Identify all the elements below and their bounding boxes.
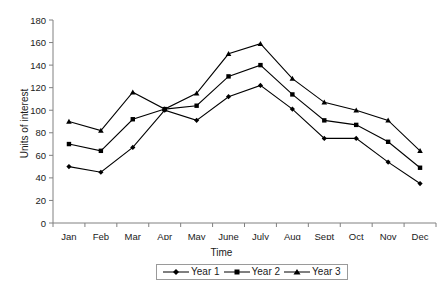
data-point-marker xyxy=(290,92,294,96)
legend-label-year-1: Year 1 xyxy=(191,266,220,277)
data-point-marker xyxy=(226,74,230,78)
data-point-marker xyxy=(130,89,136,94)
x-axis-tick-label: Apr xyxy=(157,231,172,240)
legend-item-year-3[interactable]: Year 3 xyxy=(282,266,343,277)
y-axis-tick-label: 140 xyxy=(30,60,46,71)
line-chart: Units of interest 0204060801001201401601… xyxy=(0,0,443,302)
x-axis-tick-label: Aug xyxy=(284,231,301,240)
x-axis-tick-label: May xyxy=(188,231,206,240)
x-axis-tick-label: Dec xyxy=(412,231,429,240)
x-axis-tick-label: June xyxy=(218,231,239,240)
data-point-marker xyxy=(354,123,358,127)
series-line-year-2 xyxy=(69,65,420,168)
x-axis-tick-label: Nov xyxy=(380,231,397,240)
x-axis-title: Time xyxy=(0,247,443,258)
x-axis-tick-label: Feb xyxy=(93,231,109,240)
y-axis-tick-label: 20 xyxy=(35,195,46,206)
series-line-year-3 xyxy=(69,44,420,151)
y-axis-tick-label: 40 xyxy=(35,172,46,183)
x-axis-tick-label: July xyxy=(252,231,269,240)
x-axis-tick-label: Oct xyxy=(349,231,364,240)
x-axis-tick-label: Mar xyxy=(125,231,141,240)
y-axis-tick-label: 80 xyxy=(35,127,46,138)
data-point-marker xyxy=(386,140,390,144)
legend-marker-diamond-icon xyxy=(163,267,189,277)
y-axis-tick-label: 60 xyxy=(35,150,46,161)
legend-marker-square-icon xyxy=(224,267,250,277)
data-point-marker xyxy=(131,117,135,121)
data-point-marker xyxy=(99,149,103,153)
series-line-year-1 xyxy=(69,85,420,183)
legend-label-year-3: Year 3 xyxy=(312,266,341,277)
legend-marker-triangle-icon xyxy=(284,267,310,277)
y-axis-tick-label: 180 xyxy=(30,15,46,26)
y-axis-tick-label: 100 xyxy=(30,105,46,116)
chart-legend: Year 1 Year 2 Year 3 xyxy=(156,264,348,280)
legend-item-year-1[interactable]: Year 1 xyxy=(161,266,222,277)
data-point-marker xyxy=(258,63,262,67)
y-axis-tick-label: 120 xyxy=(30,82,46,93)
y-axis-tick-label: 160 xyxy=(30,37,46,48)
data-point-marker xyxy=(418,166,422,170)
data-point-marker xyxy=(194,104,198,108)
data-point-marker xyxy=(66,164,71,169)
data-point-marker xyxy=(258,41,264,46)
chart-plot-area: 020406080100120140160180JanFebMarAprMayJ… xyxy=(0,0,443,240)
data-point-marker xyxy=(322,118,326,122)
x-axis-tick-label: Sept xyxy=(315,231,335,240)
y-axis-tick-label: 0 xyxy=(41,218,46,229)
legend-label-year-2: Year 2 xyxy=(252,266,281,277)
data-point-marker xyxy=(66,119,72,124)
x-axis-tick-label: Jan xyxy=(61,231,76,240)
legend-item-year-2[interactable]: Year 2 xyxy=(222,266,283,277)
data-point-marker xyxy=(67,142,71,146)
